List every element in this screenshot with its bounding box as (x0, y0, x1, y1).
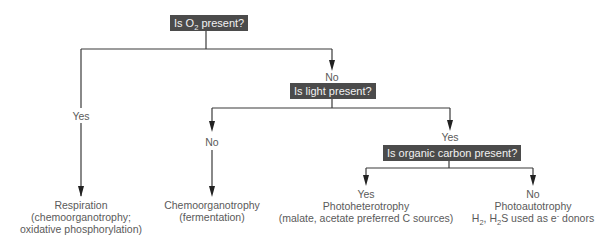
branch-label-carbon-yes: Yes (279, 188, 454, 200)
question-oxygen-box: Is O2 present? (170, 15, 248, 31)
branch-label-light-no: No (205, 136, 218, 148)
branch-label-oxygen-no: No (325, 71, 338, 83)
outcome-respiration: Respiration (chemoorganotrophy; oxidativ… (20, 199, 142, 235)
question-text: present? (198, 17, 244, 29)
question-organic-carbon-box: Is organic carbon present? (383, 145, 521, 161)
outcome-photoautotrophy: No Photoautotrophy H2, H2S used as e- do… (472, 188, 594, 224)
question-text: Is organic carbon present? (387, 147, 517, 159)
outcome-detail: (chemoorganotrophy; (20, 211, 142, 223)
outcome-fermentation: Chemoorganotrophy (fermentation) (164, 199, 260, 223)
question-text: Is light present? (294, 85, 372, 97)
outcome-detail: (malate, acetate preferred C sources) (279, 212, 454, 224)
outcome-title: Photoautotrophy (472, 200, 594, 212)
question-text: Is O (174, 17, 194, 29)
branch-label-oxygen-yes: Yes (72, 110, 89, 122)
outcome-title: Chemoorganotrophy (164, 199, 260, 211)
outcome-title: Photoheterotrophy (279, 200, 454, 212)
branch-label-light-yes: Yes (441, 131, 458, 143)
outcome-detail: (fermentation) (164, 211, 260, 223)
question-light-box: Is light present? (290, 83, 376, 99)
outcome-photoheterotrophy: Yes Photoheterotrophy (malate, acetate p… (279, 188, 454, 224)
outcome-detail: oxidative phosphorylation) (20, 223, 142, 235)
branch-label-carbon-no: No (472, 188, 594, 200)
outcome-title: Respiration (20, 199, 142, 211)
outcome-detail: H2, H2S used as e- donors (472, 212, 594, 224)
